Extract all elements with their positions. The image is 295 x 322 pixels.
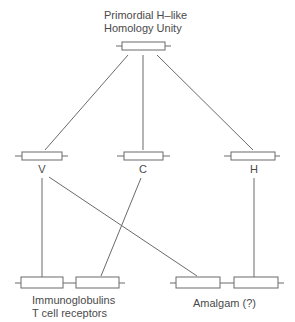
root-label-line1: Primordial H–like [104,9,187,21]
homology-diagram [0,0,295,322]
node-v-domain [15,152,68,160]
ig-label-line1: Immunoglobulins [32,294,115,306]
node-c-domain [117,152,170,160]
node-ig-tcr-domains [15,277,125,288]
edge-root-to-v [45,55,128,150]
h-label: H [250,163,258,175]
edge-root-to-h [157,55,253,150]
root-label-line2: Homology Unity [104,22,182,34]
v-label: V [38,163,45,175]
node-h-domain [224,152,280,160]
amalgam-label: Amalgam (?) [193,297,256,309]
ig-label-line2: T cell receptors [32,307,107,319]
edge-c-to-ig [101,178,141,276]
node-root-domain [116,42,171,50]
node-amalgam-domains [170,277,284,288]
edge-v-to-amalgam [49,177,197,276]
c-label: C [139,163,147,175]
